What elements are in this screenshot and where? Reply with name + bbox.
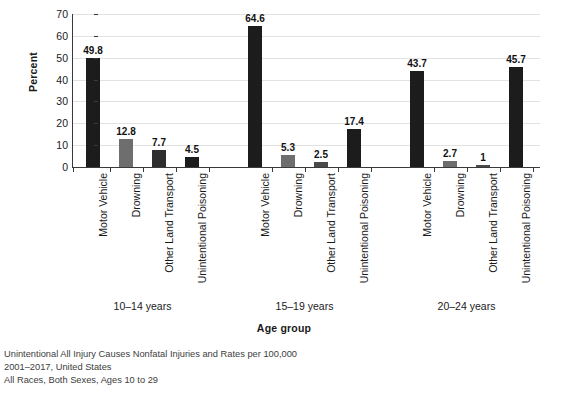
x-tick-mark xyxy=(272,167,273,172)
bar: 4.5 xyxy=(185,157,199,167)
x-axis-category-label-text: Drowning xyxy=(293,173,304,217)
bar-value-label: 2.7 xyxy=(443,149,457,159)
x-axis-category-label: Unintentional Poisoning xyxy=(359,173,370,283)
y-tick-label-70: 70 xyxy=(28,9,68,20)
bar-value-label: 43.7 xyxy=(407,59,426,69)
x-axis-category-label-text: Unintentional Poisoning xyxy=(359,173,370,283)
x-axis-category-label-text: Other Land Transport xyxy=(326,173,337,273)
x-axis-category-label-text: Unintentional Poisoning xyxy=(521,173,532,283)
x-axis-category-label-text: Other Land Transport xyxy=(488,173,499,273)
x-axis-category-label-text: Drowning xyxy=(455,173,466,217)
bar: 5.3 xyxy=(281,155,295,167)
x-tick-mark xyxy=(110,167,111,172)
x-axis-category-label: Motor Vehicle xyxy=(98,173,109,237)
bar-value-label: 4.5 xyxy=(185,145,199,155)
gridline-70 xyxy=(73,14,540,15)
x-tick-mark xyxy=(176,167,177,172)
bar: 12.8 xyxy=(119,139,133,167)
x-tick-mark xyxy=(500,167,501,172)
x-tick-mark xyxy=(73,167,74,172)
x-tick-mark xyxy=(434,167,435,172)
x-axis-category-label: Drowning xyxy=(293,173,304,217)
x-tick-mark xyxy=(533,167,534,172)
bar-value-label: 5.3 xyxy=(281,143,295,153)
bar-value-label: 7.7 xyxy=(152,138,166,148)
x-axis-category-label: Unintentional Poisoning xyxy=(521,173,532,283)
bar-value-label: 2.5 xyxy=(314,150,328,160)
footnote-line-2: 2001–2017, United States xyxy=(4,361,444,374)
x-axis-category-label: Other Land Transport xyxy=(164,173,175,273)
bar-value-label: 45.7 xyxy=(506,55,525,65)
x-tick-mark xyxy=(371,167,372,172)
x-axis-category-label: Unintentional Poisoning xyxy=(197,173,208,283)
x-tick-mark xyxy=(338,167,339,172)
bar: 64.6 xyxy=(248,26,262,167)
x-axis-category-label: Drowning xyxy=(455,173,466,217)
x-tick-mark xyxy=(209,167,210,172)
y-tick-label-0: 0 xyxy=(28,162,68,173)
x-axis-category-label-text: Motor Vehicle xyxy=(98,173,109,237)
bar-value-label: 64.6 xyxy=(245,14,264,24)
x-axis-group-label: 20–24 years xyxy=(438,300,496,312)
x-axis-category-labels: Motor VehicleDrowningOther Land Transpor… xyxy=(73,173,540,291)
footnote-line-1: Unintentional All Injury Causes Nonfatal… xyxy=(4,348,444,361)
bar-value-label: 49.8 xyxy=(83,46,102,56)
gridline-40 xyxy=(73,80,540,81)
bar: 45.7 xyxy=(509,67,523,167)
x-axis-category-label: Other Land Transport xyxy=(326,173,337,273)
bar-value-label: 1 xyxy=(480,153,486,163)
gridline-50 xyxy=(73,58,540,59)
y-tick-label-20: 20 xyxy=(28,118,68,129)
y-tick-mark-50 xyxy=(94,58,98,59)
x-axis-category-label-text: Motor Vehicle xyxy=(260,173,271,237)
y-axis-title: Percent xyxy=(27,32,39,112)
x-axis-category-label: Other Land Transport xyxy=(488,173,499,273)
y-tick-mark-70 xyxy=(94,14,98,15)
x-axis-category-label-text: Other Land Transport xyxy=(164,173,175,273)
x-axis-category-label-text: Unintentional Poisoning xyxy=(197,173,208,283)
x-tick-mark xyxy=(467,167,468,172)
bar: 43.7 xyxy=(410,71,424,167)
y-tick-mark-30 xyxy=(94,101,98,102)
x-axis-category-label-text: Motor Vehicle xyxy=(422,173,433,237)
bar: 7.7 xyxy=(152,150,166,167)
footnote-block: Unintentional All Injury Causes Nonfatal… xyxy=(4,348,444,388)
bar-value-label: 12.8 xyxy=(116,127,135,137)
x-axis-category-label-text: Drowning xyxy=(131,173,142,217)
x-axis-group-label: 10–14 years xyxy=(114,300,172,312)
gridlines xyxy=(73,14,540,167)
x-axis-group-labels: 10–14 years15–19 years20–24 years xyxy=(73,300,540,316)
y-tick-mark-10 xyxy=(94,145,98,146)
x-tick-mark xyxy=(305,167,306,172)
bar-chart-figure: 49.812.87.74.564.65.32.517.443.72.7145.7… xyxy=(0,0,568,397)
gridline-10 xyxy=(73,145,540,146)
gridline-20 xyxy=(73,123,540,124)
gridline-60 xyxy=(73,36,540,37)
x-axis-title: Age group xyxy=(0,322,568,334)
y-axis-spine xyxy=(72,14,73,168)
gridline-30 xyxy=(73,101,540,102)
x-tick-mark xyxy=(143,167,144,172)
x-axis-category-label: Motor Vehicle xyxy=(422,173,433,237)
y-tick-label-10: 10 xyxy=(28,140,68,151)
bar: 49.8 xyxy=(86,58,100,167)
x-axis-category-label: Motor Vehicle xyxy=(260,173,271,237)
x-axis-category-label: Drowning xyxy=(131,173,142,217)
y-tick-mark-40 xyxy=(94,80,98,81)
footnote-line-3: All Races, Both Sexes, Ages 10 to 29 xyxy=(4,374,444,387)
plot-area: 49.812.87.74.564.65.32.517.443.72.7145.7 xyxy=(73,14,540,167)
y-tick-mark-20 xyxy=(94,123,98,124)
x-axis-group-label: 15–19 years xyxy=(276,300,334,312)
y-tick-mark-60 xyxy=(94,36,98,37)
bar-value-label: 17.4 xyxy=(344,117,363,127)
bar: 17.4 xyxy=(347,129,361,167)
